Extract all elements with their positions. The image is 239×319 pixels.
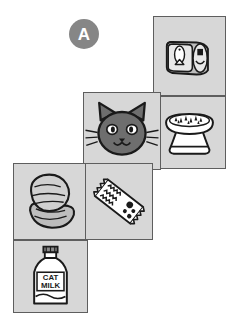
cat-milk-bottle-icon: CAT MILK [14, 241, 87, 312]
cell-cat-milk[interactable]: CAT MILK [13, 240, 88, 313]
diagram-canvas: A [0, 0, 239, 319]
cell-fish-can[interactable] [153, 16, 226, 96]
food-bowl-icon [154, 97, 225, 168]
cat-face-icon [84, 93, 160, 169]
cell-treat-bag[interactable] [85, 163, 153, 240]
figure-label-text: A [78, 26, 90, 43]
meat-fillet-icon [14, 164, 87, 239]
cell-cat-face[interactable] [83, 92, 161, 170]
figure-label-badge: A [69, 19, 99, 49]
cell-meat-fillet[interactable] [13, 163, 88, 240]
cat-milk-label-line2: MILK [41, 281, 60, 290]
cell-food-bowl[interactable] [153, 96, 226, 169]
fish-can-icon [154, 17, 225, 95]
treat-bag-icon [86, 164, 152, 239]
